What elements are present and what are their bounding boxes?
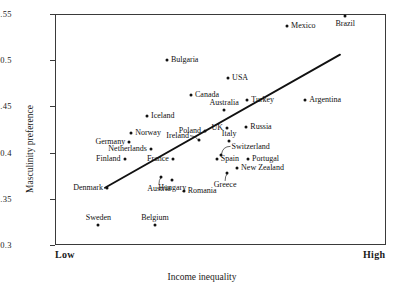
data-point [146, 114, 149, 117]
y-tick-label: 0.45 [0, 101, 12, 111]
point-label: Russia [250, 123, 271, 131]
y-tick-label: 0.55 [0, 9, 12, 19]
y-tick-mark [50, 106, 55, 107]
point-label: Spain [221, 155, 239, 163]
point-label: Romania [188, 187, 217, 195]
data-point [223, 109, 226, 112]
data-point [226, 171, 229, 174]
point-label: Belgium [141, 214, 169, 222]
data-point [165, 59, 168, 62]
data-point [190, 94, 193, 97]
data-point [304, 98, 307, 101]
point-label: Netherlands [108, 145, 147, 153]
data-point [97, 223, 100, 226]
data-point [171, 158, 174, 161]
data-point [203, 130, 206, 133]
data-point [344, 14, 347, 17]
point-label: Mexico [291, 22, 315, 30]
point-label: France [147, 155, 169, 163]
y-tick-label: 0.35 [0, 194, 12, 204]
point-label: Bulgaria [171, 56, 199, 64]
x-axis-low-label: Low [55, 249, 75, 260]
data-point [236, 167, 239, 170]
scatter-chart: 0.550.50.450.40.350.3 Masculinity prefer… [0, 0, 404, 298]
point-label: Brazil [336, 20, 356, 28]
data-point [128, 140, 131, 143]
data-point [153, 223, 156, 226]
point-label: Ireland [166, 132, 189, 140]
data-point [286, 25, 289, 28]
point-label: Turkey [251, 96, 274, 104]
data-point [246, 158, 249, 161]
point-label: Finland [96, 155, 120, 163]
x-axis-title: Income inequality [0, 272, 404, 282]
data-point [197, 138, 200, 141]
point-label: Norway [135, 129, 161, 137]
data-point [171, 179, 174, 182]
point-label: Sweden [86, 214, 111, 222]
y-tick-mark [50, 153, 55, 154]
data-point [149, 147, 152, 150]
point-label: Greece [214, 181, 237, 189]
y-tick-label: 0.3 [0, 240, 12, 250]
data-point [246, 98, 249, 101]
data-point [123, 158, 126, 161]
y-tick-mark [50, 245, 55, 246]
data-point [105, 186, 108, 189]
point-label: Denmark [73, 184, 103, 192]
y-tick-label: 0.4 [0, 148, 12, 158]
point-label: USA [232, 74, 248, 82]
y-tick-mark [50, 199, 55, 200]
x-axis-high-label: High [363, 249, 385, 260]
data-point [228, 139, 231, 142]
y-tick-mark [50, 60, 55, 61]
data-point [245, 125, 248, 128]
point-label: Switzerland [232, 143, 270, 151]
data-point [227, 76, 230, 79]
point-label: Portugal [252, 155, 279, 163]
data-point [159, 175, 162, 178]
data-point [182, 190, 185, 193]
data-point [215, 158, 218, 161]
y-tick-mark [50, 14, 55, 15]
point-label: New Zealand [241, 164, 284, 172]
point-label: Iceland [151, 112, 175, 120]
point-label: Australia [209, 99, 238, 107]
point-label: Italy [222, 130, 237, 138]
data-point [130, 132, 133, 135]
point-label: Argentina [309, 96, 341, 104]
y-tick-label: 0.5 [0, 55, 12, 65]
y-axis-title: Masculinity preference [25, 69, 35, 229]
